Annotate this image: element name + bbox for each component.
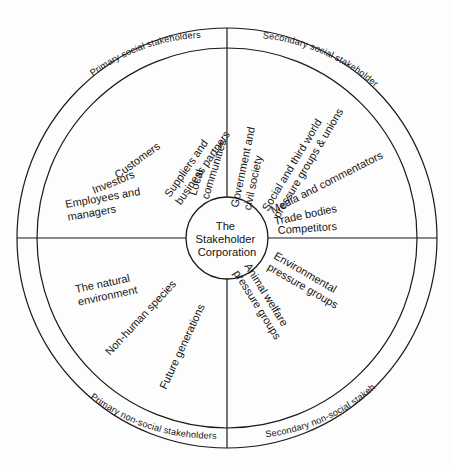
spoke-investors-text: Investors [90, 168, 136, 196]
svg-text:Customers: Customers [112, 139, 162, 180]
ring-label-primary-social-text: Primary social stakeholders [88, 30, 201, 78]
spoke-local-communities: Local communities [186, 134, 228, 201]
spoke-customers-text: Customers [112, 139, 162, 180]
spoke-natural-environment-line2: environment [77, 283, 139, 307]
spoke-employees-managers: Employees and managers [64, 184, 146, 222]
ring-label-secondary-non-social: Secondary non-social stakeholders [0, 0, 377, 439]
spoke-natural-environment: The natural environment [74, 271, 138, 308]
svg-text:Secondary social stakeholders: Secondary social stakeholders [0, 0, 380, 89]
spoke-social-third-world-pressure-groups: Social and third world pressure groups &… [259, 99, 345, 220]
spoke-non-human-species-text: Non-human species [103, 277, 179, 357]
svg-text:Investors: Investors [90, 168, 136, 196]
spoke-trade-bodies-text: Trade bodies [273, 202, 338, 227]
svg-text:Trade bodies: Trade bodies [273, 202, 338, 227]
stakeholder-wheel-figure: Primary social stakeholders Secondary so… [0, 0, 451, 470]
core-circle [186, 197, 268, 279]
spoke-environmental-line1: Environmental [272, 249, 339, 295]
spoke-future-generations-text: Future generations [157, 302, 207, 391]
spoke-non-human-species: Non-human species [103, 277, 179, 357]
spoke-employees-line1: Employees and [64, 185, 141, 210]
spoke-suppliers-line1: Suppliers and [162, 137, 210, 199]
stakeholder-wheel-diagram: Primary social stakeholders Secondary so… [0, 0, 451, 470]
svg-text:Future generations: Future generations [157, 302, 207, 391]
spoke-competitors-text: Competitors [277, 220, 337, 236]
spoke-local-communities-line1: Local [186, 168, 205, 197]
spoke-environmental-pressure-groups: Environmental pressure groups [266, 249, 348, 311]
ring-label-secondary-non-social-text: Secondary non-social stakeholders [0, 0, 377, 439]
spoke-social-third-world-line2: pressure groups & unions [271, 106, 346, 220]
ring-label-primary-non-social-text: Primary non-social stakeholders [89, 391, 217, 440]
spoke-natural-environment-line1: The natural [74, 272, 131, 295]
ring-label-primary-social: Primary social stakeholders [88, 30, 201, 78]
ring-label-secondary-social-text: Secondary social stakeholders [0, 0, 380, 89]
spoke-local-communities-line2: communities [199, 137, 229, 200]
svg-text:Non-human species: Non-human species [103, 277, 179, 357]
svg-text:Competitors: Competitors [277, 220, 337, 236]
svg-text:Local communities: Local communities [186, 134, 228, 201]
spoke-social-third-world-line1: Social and third world [259, 117, 323, 213]
svg-text:Suppliers and business: Suppliers and business partners [162, 121, 233, 207]
spoke-competitors: Competitors [277, 220, 337, 236]
spoke-customers: Customers [112, 139, 162, 180]
spoke-media-commentators: Media and commentators [268, 149, 384, 216]
svg-text:Employees and managers: Employees and managers [64, 184, 146, 222]
ring-label-secondary-social: Secondary social stakeholders [0, 0, 380, 89]
spoke-government-line1: Government and [228, 126, 257, 209]
spoke-trade-bodies: Trade bodies [273, 202, 338, 227]
svg-text:Primary social stakeholders: Primary social stakeholders [88, 30, 201, 78]
svg-text:Secondary non-social stakehold: Secondary non-social stakeholders [0, 0, 377, 439]
spoke-future-generations: Future generations [157, 302, 207, 391]
spoke-employees-line2: managers [67, 202, 118, 222]
svg-text:Primary non-social stakeholder: Primary non-social stakeholders [89, 391, 217, 440]
spoke-media-commentators-text: Media and commentators [268, 149, 384, 216]
spoke-animal-welfare-line2: pressure groups [231, 268, 284, 342]
svg-text:Social and third world: Social and third world pressure groups &… [259, 99, 345, 220]
spoke-environmental-line2: pressure groups [266, 261, 341, 311]
svg-text:The natural environmen: The natural environment [74, 271, 138, 308]
spoke-suppliers-business-partners: Suppliers and business partners [162, 121, 233, 207]
spoke-investors: Investors [90, 168, 136, 196]
svg-text:Environmental pressure: Environmental pressure groups [266, 249, 348, 311]
ring-label-primary-non-social: Primary non-social stakeholders [89, 391, 217, 440]
svg-text:Media and commentators: Media and commentators [268, 149, 384, 216]
spoke-suppliers-line2: business partners [172, 128, 232, 206]
